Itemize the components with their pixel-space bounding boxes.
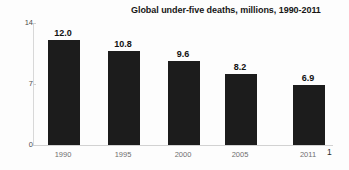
x-axis-category-label: 1990	[39, 150, 87, 159]
bar-group: 12.01990	[48, 23, 78, 145]
bar-value-label: 12.0	[40, 28, 86, 38]
bar-group: 8.22005	[225, 23, 255, 145]
x-axis-category-label: 2005	[216, 150, 264, 159]
bar-group: 6.92011	[293, 23, 323, 145]
x-axis-category-label: 2011	[284, 150, 332, 159]
x-axis-category-label: 2000	[159, 150, 207, 159]
bar	[108, 51, 140, 145]
y-axis-tick-label: 7	[7, 80, 33, 88]
bar-group: 10.81995	[108, 23, 138, 145]
bar-value-label: 8.2	[217, 62, 263, 72]
y-axis-tick-group: 0714	[0, 0, 33, 170]
bar	[48, 40, 80, 145]
y-axis-tick-mark	[33, 84, 36, 85]
x-axis-category-label: 1995	[99, 150, 147, 159]
y-axis-tick-mark	[33, 145, 36, 146]
bar	[225, 74, 257, 145]
bar	[168, 61, 200, 145]
bar-chart: Global under-five deaths, millions, 1990…	[0, 0, 349, 170]
bar-value-label: 6.9	[285, 73, 331, 83]
bar-group: 9.62000	[168, 23, 198, 145]
y-axis-tick-label: 0	[7, 141, 33, 149]
bar-value-label: 9.6	[160, 49, 206, 59]
y-axis-tick-label: 14	[7, 19, 33, 27]
plot-area: 12.0199010.819959.620008.220056.92011	[33, 23, 333, 145]
bar-value-label: 10.8	[100, 39, 146, 49]
bar	[293, 85, 325, 145]
x-axis-baseline	[33, 145, 333, 146]
footnote-marker: 1	[327, 147, 332, 157]
y-axis-tick-mark	[33, 23, 36, 24]
chart-title: Global under-five deaths, millions, 1990…	[131, 5, 346, 15]
